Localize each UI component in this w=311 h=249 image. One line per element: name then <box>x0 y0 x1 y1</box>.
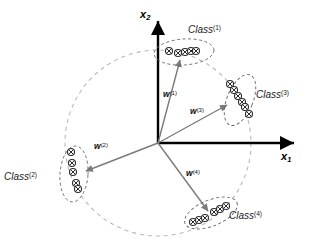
diagram-canvas: x1 x2 w(1) w(2) w(3) w(4) <box>0 0 311 249</box>
class-3-data-points <box>227 81 253 118</box>
x2-axis-label: x2 <box>139 8 151 22</box>
class-1-data-points <box>166 48 200 57</box>
class-2-data-points <box>68 149 82 193</box>
class-1-label: Class(1) <box>188 24 221 35</box>
class-4-label: Class(4) <box>229 210 262 221</box>
weight-vector-2-label: w(2) <box>94 141 108 151</box>
class-2-label: Class(2) <box>4 171 37 182</box>
prototype-classifier-diagram: x1 x2 w(1) w(2) w(3) w(4) <box>0 0 311 249</box>
weight-vector-4-arrow <box>158 143 208 211</box>
x1-axis-label: x1 <box>280 150 291 164</box>
weight-vector-1-arrow <box>158 60 180 143</box>
weight-vector-3-label: w(3) <box>190 106 204 116</box>
class-4-data-points <box>190 203 230 226</box>
weight-vector-4-label: w(4) <box>186 168 200 178</box>
class-3-label: Class(3) <box>256 89 289 100</box>
